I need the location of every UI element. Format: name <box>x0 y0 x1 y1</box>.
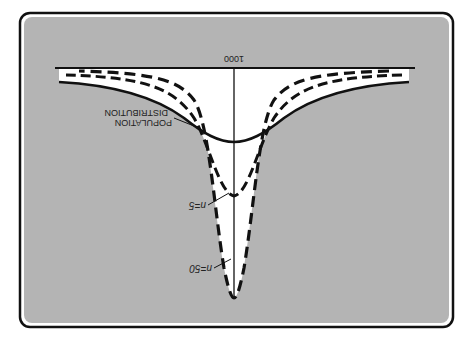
population-label-line2: DISTRIBUTION <box>104 108 168 118</box>
n5-label: n=5 <box>189 200 206 211</box>
figure-canvas: 1000 POPULATION DISTRIBUTION n=5 n=50 <box>0 0 464 358</box>
n50-label: n=50 <box>189 263 212 274</box>
population-label-line1: POPULATION <box>115 118 172 128</box>
axis-value-label: 1000 <box>224 54 244 64</box>
